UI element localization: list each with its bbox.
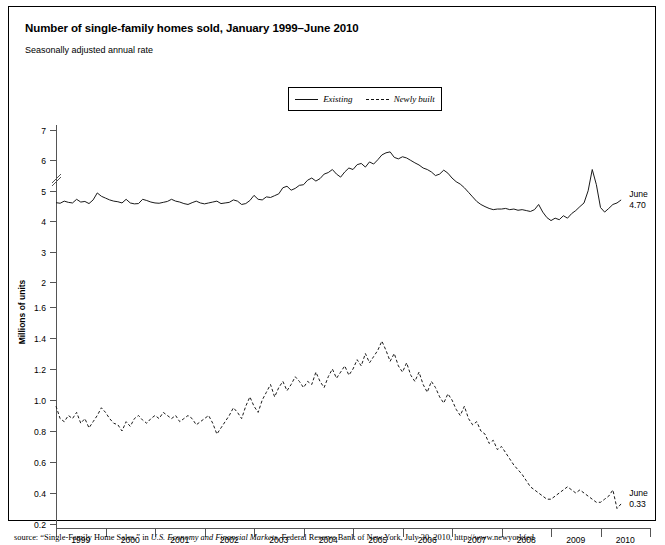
y-tick-label-1.4: 1.4 xyxy=(34,334,46,344)
y-tick-label-0.4: 0.4 xyxy=(34,489,46,499)
y-tick-label-1: 1.0 xyxy=(34,396,46,406)
chart-subtitle: Seasonally adjusted annual rate xyxy=(25,45,153,55)
page-title: Number of single-family homes sold, Janu… xyxy=(25,22,359,34)
legend-line-solid-icon xyxy=(295,99,318,100)
y-axis-label: Millions of units xyxy=(17,272,27,352)
y-tick-label-1.6: 1.6 xyxy=(34,303,46,313)
y-tick-label-3: 3 xyxy=(41,248,46,258)
legend-item-newly-built: Newly built xyxy=(366,94,435,104)
annotation-newly-built: June 0.33 xyxy=(629,488,648,510)
x-tick-label-2009: 2009 xyxy=(566,535,585,545)
y-tick-label-0.6: 0.6 xyxy=(34,458,46,468)
figure-frame: Number of single-family homes sold, Janu… xyxy=(8,6,656,521)
y-tick-label-2: 2 xyxy=(41,278,46,288)
x-tick xyxy=(650,528,651,537)
y-tick-label-5: 5 xyxy=(41,187,46,197)
y-tick-label-1.2: 1.2 xyxy=(34,365,46,375)
plot-area: 2345670.20.40.60.81.01.21.41.6 199920002… xyxy=(56,125,650,529)
x-tick xyxy=(601,528,602,537)
x-tick xyxy=(551,528,552,537)
source-italic: U.S. Economy and Financial Markets xyxy=(151,533,278,542)
legend-label-newly-built: Newly built xyxy=(394,94,435,104)
annotation-newly-line1: June xyxy=(629,488,648,499)
annotation-newly-line2: 0.33 xyxy=(629,499,648,510)
annotation-existing-line1: June xyxy=(629,189,648,200)
legend-line-dashed-icon xyxy=(366,99,389,100)
y-tick-label-0.8: 0.8 xyxy=(34,427,46,437)
y-tick-label-6: 6 xyxy=(41,156,46,166)
source-suffix: , Federal Reserve Bank of New York, July… xyxy=(277,533,534,542)
annotation-existing: June 4.70 xyxy=(629,189,648,211)
source-prefix: source: “Single-Family Home Sales,” in xyxy=(14,533,151,542)
legend-item-existing: Existing xyxy=(295,94,353,104)
series-newly-built xyxy=(56,125,650,529)
legend-label-existing: Existing xyxy=(323,94,353,104)
y-tick-label-0.2: 0.2 xyxy=(34,520,46,530)
x-tick-label-2010: 2010 xyxy=(616,535,635,545)
annotation-existing-line2: 4.70 xyxy=(629,200,648,211)
y-tick-label-4: 4 xyxy=(41,217,46,227)
y-tick-label-7: 7 xyxy=(41,126,46,136)
chart-legend: Existing Newly built xyxy=(288,87,442,111)
source-note: source: “Single-Family Home Sales,” in U… xyxy=(14,533,534,542)
